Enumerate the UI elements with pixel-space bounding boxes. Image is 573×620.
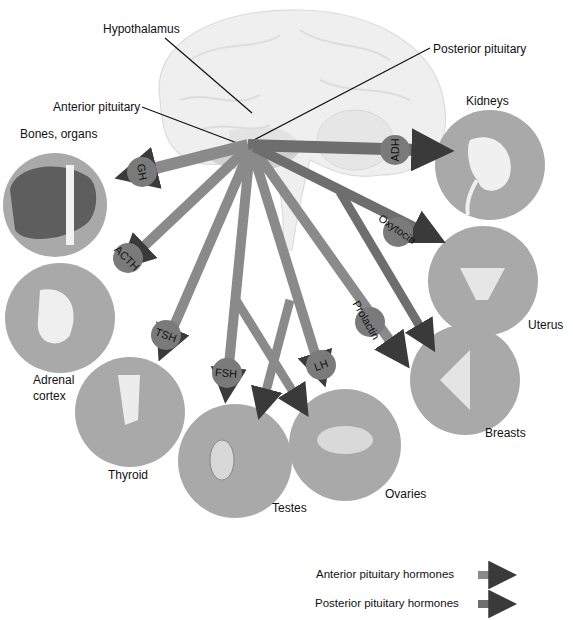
adrenal-label-line2: cortex [33,389,66,403]
breasts-label: Breasts [485,426,526,440]
gh-label: GH [134,163,151,182]
hypothalamus-label: Hypothalamus [103,22,180,36]
legend-anterior-label: Anterior pituitary hormones [316,568,454,580]
legend-posterior-label: Posterior pituitary hormones [315,597,459,609]
thyroid-label: Thyroid [108,468,148,482]
anterior-pituitary-label: Anterior pituitary [53,100,140,114]
adrenal-label-line1: Adrenal [33,373,74,387]
kidneys-label: Kidneys [466,94,509,108]
posterior-pituitary-label: Posterior pituitary [433,42,526,56]
adh-label: ADH [388,138,402,161]
hormone-arrows [140,145,422,395]
uterus-label: Uterus [528,318,563,332]
legend-arrows [478,575,494,604]
bones-organs-label: Bones, organs [20,127,97,141]
endocrine-diagram [0,0,573,620]
testes-label: Testes [272,501,307,515]
fsh-label: FSH [214,365,237,381]
ovaries-label: Ovaries [385,487,426,501]
